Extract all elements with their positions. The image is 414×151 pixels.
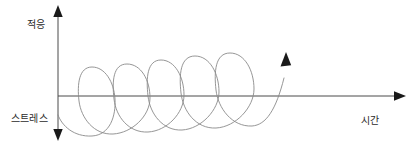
stress-adaptation-spiral-diagram: 적응 스트레스 시간: [0, 0, 414, 151]
diagram-canvas: [0, 0, 414, 151]
y-axis-bottom-label: 스트레스: [11, 113, 48, 125]
vertical-axis: [53, 5, 62, 141]
horizontal-axis: [58, 91, 406, 100]
spiral-end-arrowhead: [281, 52, 292, 67]
vertical-axis-up-arrowhead: [53, 5, 62, 17]
vertical-axis-down-arrowhead: [53, 129, 62, 141]
spiral-curve-group: [58, 52, 291, 136]
horizontal-axis-right-arrowhead: [394, 91, 406, 100]
spiral-curve-path: [58, 53, 284, 136]
x-axis-label: 시간: [361, 115, 379, 127]
y-axis-top-label: 적응: [27, 19, 45, 31]
